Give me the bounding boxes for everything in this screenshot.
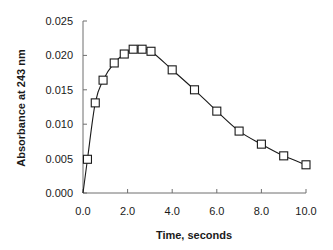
y-tick-label: 0.020 (45, 49, 73, 61)
x-tick-label: 0.0 (75, 205, 90, 217)
data-point-marker (138, 45, 146, 53)
data-point-marker (213, 107, 221, 115)
series-line (83, 49, 306, 193)
data-point-marker (120, 50, 128, 58)
x-tick-label: 2.0 (120, 205, 135, 217)
data-point-marker (147, 47, 155, 55)
x-tick-labels: 0.02.04.06.08.010.0 (75, 205, 316, 217)
y-tick-label: 0.025 (45, 15, 73, 27)
data-point-marker (235, 127, 243, 135)
x-tick-label: 6.0 (209, 205, 224, 217)
chart: Absorbance at 243 nm Time, seconds 0.000… (0, 0, 333, 250)
y-tick-labels: 0.0000.0050.0100.0150.0200.025 (45, 15, 73, 199)
data-point-marker (191, 86, 199, 94)
y-tick-label: 0.015 (45, 84, 73, 96)
data-point-marker (129, 45, 137, 53)
data-point-marker (99, 76, 107, 84)
x-tick-label: 10.0 (295, 205, 316, 217)
data-point-marker (110, 59, 118, 67)
data-point-marker (257, 140, 265, 148)
y-tick-label: 0.005 (45, 153, 73, 165)
data-point-marker (302, 161, 310, 169)
y-tick-label: 0.010 (45, 118, 73, 130)
plot-area (83, 45, 310, 193)
data-point-marker (168, 66, 176, 74)
data-point-marker (83, 155, 91, 163)
data-point-marker (91, 99, 99, 107)
x-tick-label: 8.0 (254, 205, 269, 217)
data-point-marker (280, 152, 288, 160)
x-axis-title: Time, seconds (156, 229, 232, 241)
x-tick-label: 4.0 (165, 205, 180, 217)
axes (83, 21, 306, 193)
y-axis-title: Absorbance at 243 nm (15, 49, 27, 167)
y-tick-label: 0.000 (45, 187, 73, 199)
y-axis-title-group: Absorbance at 243 nm (15, 49, 27, 167)
